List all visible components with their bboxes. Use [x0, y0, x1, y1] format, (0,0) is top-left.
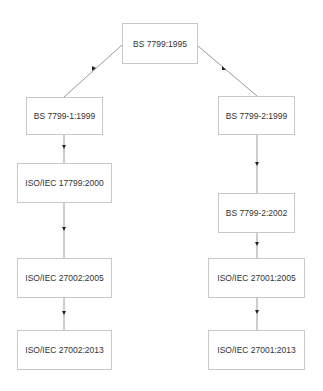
- node-label: ISO/IEC 27001:2013: [217, 345, 295, 355]
- node-iso27001-2013: ISO/IEC 27001:2013: [208, 330, 305, 370]
- node-iso27002-2005: ISO/IEC 27002:2005: [17, 258, 112, 298]
- node-label: ISO/IEC 27002:2013: [25, 345, 103, 355]
- node-iso17799-2000: ISO/IEC 17799:2000: [17, 163, 112, 203]
- arrow-marker-icon: [62, 311, 66, 315]
- node-label: BS 7799-2:1999: [226, 111, 287, 121]
- arrow-marker-icon: [255, 310, 259, 314]
- node-bs7799-2-2002: BS 7799-2:2002: [218, 193, 295, 233]
- node-bs7799-2-1999: BS 7799-2:1999: [218, 96, 295, 135]
- arrow-marker-icon: [255, 242, 259, 246]
- edge-root-r1: [198, 46, 257, 96]
- node-label: BS 7799:1995: [133, 39, 187, 49]
- node-iso27002-2013: ISO/IEC 27002:2013: [17, 330, 112, 370]
- node-label: BS 7799-1:1999: [34, 111, 95, 121]
- edge-root-l1: [64, 45, 122, 97]
- arrow-marker-icon: [62, 145, 66, 149]
- node-label: BS 7799-2:2002: [226, 208, 287, 218]
- arrow-marker-icon: [62, 227, 66, 231]
- node-iso27001-2005: ISO/IEC 27001:2005: [208, 258, 305, 298]
- node-label: ISO/IEC 27001:2005: [217, 273, 295, 283]
- node-bs7799-1995: BS 7799:1995: [122, 23, 198, 64]
- arrow-marker-icon: [255, 162, 259, 166]
- node-label: ISO/IEC 17799:2000: [25, 178, 103, 188]
- node-bs7799-1-1999: BS 7799-1:1999: [26, 97, 103, 135]
- node-label: ISO/IEC 27002:2005: [25, 273, 103, 283]
